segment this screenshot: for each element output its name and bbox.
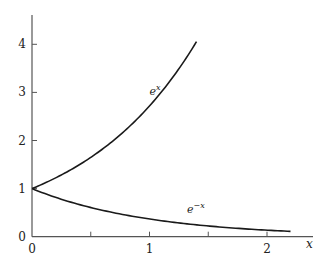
y-tick-label: 2 — [18, 134, 26, 148]
x-tick-label: 2 — [263, 242, 271, 256]
exp-x-curve — [32, 42, 197, 189]
x-axis: 012 x — [28, 232, 313, 256]
y-axis: 01234 — [18, 15, 37, 244]
exp-neg-x-curve — [32, 189, 291, 232]
curve-labels: exe−x — [150, 83, 206, 216]
y-tick-label: 3 — [18, 85, 26, 99]
y-tick-label: 4 — [18, 37, 26, 51]
x-tick-label: 1 — [146, 242, 154, 256]
x-tick-label: 0 — [28, 242, 36, 256]
x-axis-label: x — [306, 237, 313, 251]
x-ticks: 012 — [28, 232, 271, 256]
y-tick-label: 1 — [18, 182, 26, 196]
y-ticks: 01234 — [18, 37, 37, 243]
exponential-chart: 01234 012 x exe−x — [0, 0, 331, 266]
curves — [32, 42, 291, 232]
y-tick-label: 0 — [18, 230, 26, 244]
exp-neg-x-label: e−x — [187, 201, 205, 216]
